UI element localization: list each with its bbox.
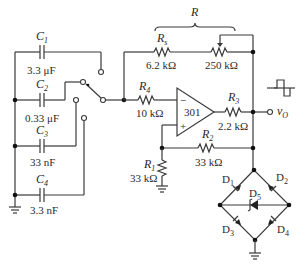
diode-d4-icon xyxy=(268,216,276,225)
resistor-r3 xyxy=(214,108,267,116)
switch-terminal-c3 xyxy=(74,98,79,103)
d2-label: D2 xyxy=(276,171,288,186)
switch-terminal-c1 xyxy=(99,70,104,75)
junction-dot xyxy=(252,168,257,173)
r3-value: 2.2 kΩ xyxy=(218,120,248,132)
rs-value: 6.2 kΩ xyxy=(146,59,176,71)
capacitor-c3 xyxy=(15,103,76,153)
junction-dot xyxy=(251,146,256,151)
junction-dot xyxy=(13,193,18,198)
junction-dot xyxy=(13,98,18,103)
square-wave-icon xyxy=(267,80,295,96)
wire xyxy=(162,125,177,148)
resistor-r1 xyxy=(158,148,166,186)
resistor-rs xyxy=(124,48,211,56)
junction-dot xyxy=(13,144,18,149)
pot-value: 250 kΩ xyxy=(205,59,238,71)
junction-dot xyxy=(251,50,256,55)
c1-name: C1 xyxy=(36,29,48,45)
opamp-plus: + xyxy=(180,120,186,132)
c4-name: C4 xyxy=(36,172,48,188)
r-group-label: R xyxy=(190,5,199,19)
r4-value: 10 kΩ xyxy=(136,107,163,119)
switch-common-terminal xyxy=(101,98,106,103)
rs-name: Rs xyxy=(156,31,167,47)
r1-name: R1 xyxy=(143,157,155,173)
r2-name: R2 xyxy=(201,127,213,143)
potentiometer xyxy=(211,35,253,56)
ground-icon xyxy=(156,186,168,192)
r2-value: 33 kΩ xyxy=(195,156,222,168)
junction-dot xyxy=(287,203,292,208)
selector-switch xyxy=(86,84,101,98)
c3-value: 33 nF xyxy=(30,156,55,168)
d4-label: D4 xyxy=(277,223,289,238)
junction-dot xyxy=(251,110,256,115)
output-label: vO xyxy=(277,104,288,120)
opamp-minus: − xyxy=(180,94,186,106)
r3-name: R3 xyxy=(227,90,239,106)
brace xyxy=(155,23,235,31)
output-terminal xyxy=(268,110,273,115)
switch-terminal-c4 xyxy=(82,116,87,121)
c4-value: 3.3 nF xyxy=(30,204,58,216)
d3-label: D3 xyxy=(222,223,234,238)
diode-d3-icon xyxy=(233,216,241,225)
c1-value: 3.3 μF xyxy=(27,64,56,76)
circuit-diagram: C1 3.3 μF C2 0.33 μF C3 33 nF C4 3.3 nF xyxy=(0,0,305,273)
resistor-r4 xyxy=(124,96,177,104)
r1-value: 33 kΩ xyxy=(130,172,157,184)
ground-icon xyxy=(249,253,261,259)
junction-dot xyxy=(218,203,223,208)
c2-name: C2 xyxy=(36,77,48,93)
c3-name: C3 xyxy=(36,123,48,139)
switch-terminal-c2 xyxy=(81,80,86,85)
d1-label: D1 xyxy=(222,173,234,188)
resistor-r2 xyxy=(162,144,253,152)
opamp-label: 301 xyxy=(184,106,201,118)
r4-name: R4 xyxy=(138,79,150,95)
ground-icon xyxy=(9,207,21,213)
